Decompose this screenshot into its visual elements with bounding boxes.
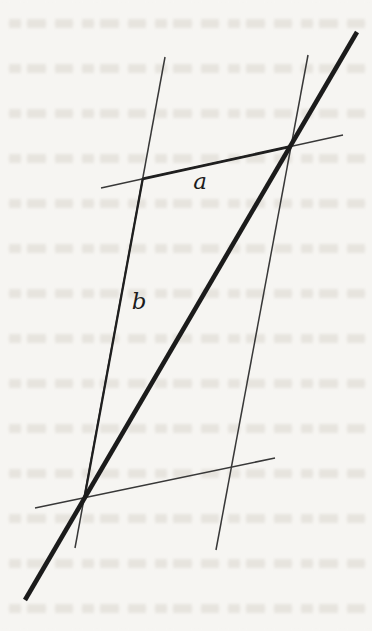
book-page: a b [0,0,372,631]
label-b: b [132,290,147,313]
main-thick-diagonal [25,32,357,600]
thin-parallel-line-right [216,55,308,550]
geometry-figure [0,0,372,631]
segment-a [143,146,291,179]
thin-transversal-bottom [35,458,275,508]
label-a: a [193,170,207,193]
